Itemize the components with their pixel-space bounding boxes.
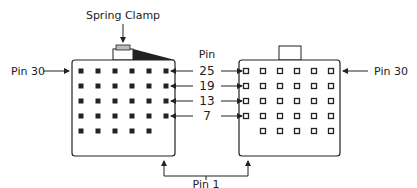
pin — [147, 129, 152, 134]
pin — [278, 84, 283, 89]
pin — [130, 114, 135, 119]
pin — [130, 69, 135, 74]
row-pin-number: 19 — [199, 79, 214, 93]
spring-clamp-label: Spring Clamp — [86, 9, 160, 22]
pin — [261, 69, 266, 74]
pin — [278, 99, 283, 104]
pin — [113, 99, 118, 104]
pin — [96, 69, 101, 74]
pin30-left-label: Pin 30 — [11, 65, 45, 78]
left-connector — [72, 45, 175, 156]
pin — [295, 84, 300, 89]
pin — [164, 84, 169, 89]
pin — [329, 129, 334, 134]
pin — [147, 84, 152, 89]
clamp-wedge — [133, 49, 175, 60]
pin — [261, 84, 266, 89]
pin — [147, 114, 152, 119]
pin — [164, 99, 169, 104]
pin — [113, 69, 118, 74]
row-pin-number: 7 — [203, 109, 211, 123]
pin — [96, 99, 101, 104]
pin — [147, 69, 152, 74]
pin — [329, 69, 334, 74]
pin — [244, 84, 249, 89]
pin — [295, 129, 300, 134]
pin — [164, 114, 169, 119]
pin — [278, 129, 283, 134]
pin — [79, 99, 84, 104]
pin-header-label: Pin — [199, 48, 215, 61]
pin — [329, 99, 334, 104]
pin — [295, 99, 300, 104]
pin — [312, 84, 317, 89]
pin — [79, 84, 84, 89]
pin — [130, 99, 135, 104]
pin — [312, 99, 317, 104]
pin — [96, 84, 101, 89]
pin — [312, 69, 317, 74]
pin — [295, 69, 300, 74]
pin — [278, 114, 283, 119]
pin — [312, 114, 317, 119]
pin — [79, 129, 84, 134]
pin — [113, 114, 118, 119]
spring-clamp — [116, 45, 130, 50]
pin — [312, 129, 317, 134]
pin — [96, 114, 101, 119]
pin — [147, 99, 152, 104]
pin — [113, 129, 118, 134]
pin — [244, 114, 249, 119]
pin — [79, 69, 84, 74]
pin — [278, 69, 283, 74]
pin — [261, 114, 266, 119]
pin — [261, 99, 266, 104]
pin — [164, 69, 169, 74]
pin — [295, 114, 300, 119]
pin — [130, 129, 135, 134]
row-pin-labels: 2519137 — [171, 64, 242, 123]
pin — [329, 114, 334, 119]
row-pin-number: 13 — [199, 94, 214, 108]
pin30-right-label: Pin 30 — [374, 65, 408, 78]
right-connector — [239, 46, 340, 156]
pin — [79, 114, 84, 119]
pin — [244, 69, 249, 74]
pin — [329, 84, 334, 89]
pin — [261, 129, 266, 134]
latch-tab — [279, 46, 301, 60]
connector-diagram: Spring Clamp Pin 30 Pin 30 Pin 2519137 P… — [0, 0, 417, 188]
pin1-label: Pin 1 — [193, 178, 220, 188]
pin — [96, 129, 101, 134]
pin — [244, 99, 249, 104]
row-pin-number: 25 — [199, 64, 214, 78]
pin — [130, 84, 135, 89]
pin — [113, 84, 118, 89]
